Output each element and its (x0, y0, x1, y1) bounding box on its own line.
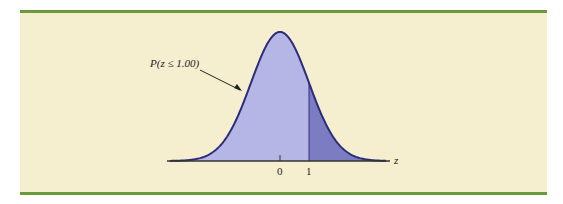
arrow-head-icon (234, 84, 242, 91)
tick-label-0: 0 (277, 165, 283, 177)
axis-label-z: z (394, 154, 398, 166)
cumulative-area (170, 32, 309, 161)
annotation-arrow-line (200, 70, 240, 90)
upper-tail-area (309, 83, 386, 161)
annotation-label: P(z ≤ 1.00) (150, 57, 199, 69)
tick-label-1: 1 (306, 165, 312, 177)
